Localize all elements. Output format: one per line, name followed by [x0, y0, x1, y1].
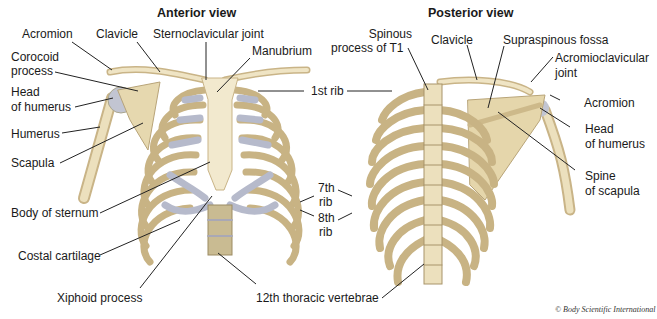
- label-1st-rib: 1st rib: [311, 84, 344, 98]
- label-clavicle-posterior: Clavicle: [431, 33, 473, 47]
- label-supraspinous-fossa: Supraspinous fossa: [503, 33, 608, 47]
- label-sternoclavicular-joint: Sternoclavicular joint: [153, 27, 264, 41]
- label-costal-cartilage: Costal cartilage: [18, 249, 101, 263]
- rib-cage-illustration: [0, 0, 657, 319]
- label-spine-of-scapula-line1: Spine: [585, 169, 616, 183]
- label-12th-thoracic-vertebrae: 12th thoracic vertebrae: [256, 291, 379, 305]
- label-scapula: Scapula: [11, 156, 54, 170]
- label-8th-rib-line1: 8th: [318, 211, 335, 225]
- label-spinous-process-line2: process of T1: [331, 41, 403, 55]
- label-xiphoid-process: Xiphoid process: [57, 291, 142, 305]
- anterior-view-title: Anterior view: [157, 6, 236, 20]
- label-corocoid-process-line1: Corocoid: [11, 50, 59, 64]
- label-7th-rib-line1: 7th: [318, 181, 335, 195]
- label-humerus: Humerus: [11, 127, 60, 141]
- anterior-rib-cage: [84, 70, 307, 262]
- label-7th-rib-line2: rib: [319, 195, 332, 209]
- label-spinous-process-line1: Spinous: [352, 27, 412, 41]
- label-acromioclavicular-joint-line1: Acromioclavicular: [555, 51, 649, 65]
- label-clavicle-anterior: Clavicle: [96, 27, 138, 41]
- label-acromion-posterior: Acromion: [584, 96, 635, 110]
- posterior-rib-cage: [370, 80, 570, 284]
- label-head-of-humerus-posterior-line2: of humerus: [585, 137, 645, 151]
- label-body-of-sternum: Body of sternum: [11, 206, 98, 220]
- label-manubrium: Manubrium: [252, 44, 312, 58]
- copyright-credit: © Body Scientific International: [555, 305, 656, 314]
- label-head-of-humerus-anterior-line2: of humerus: [11, 100, 71, 114]
- label-head-of-humerus-posterior-line1: Head: [585, 122, 614, 136]
- label-acromioclavicular-joint-line2: joint: [555, 66, 577, 80]
- label-acromion-anterior: Acromion: [22, 27, 73, 41]
- label-spine-of-scapula-line2: of scapula: [585, 184, 640, 198]
- label-head-of-humerus-anterior-line1: Head: [11, 85, 40, 99]
- posterior-view-title: Posterior view: [428, 6, 513, 20]
- label-8th-rib-line2: rib: [319, 225, 332, 239]
- label-corocoid-process-line2: process: [11, 64, 53, 78]
